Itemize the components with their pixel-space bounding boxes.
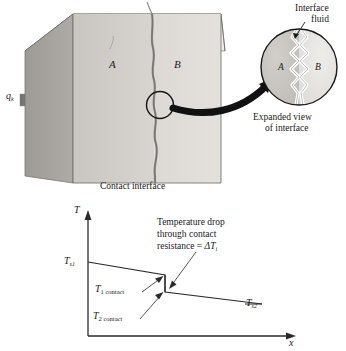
label-t2-contact: T2 contact xyxy=(93,310,122,322)
label-t2-contact-subscript: 2 contact xyxy=(99,315,123,322)
expanded-view-circle xyxy=(261,29,337,105)
leader-temperature-drop-annotation xyxy=(169,252,196,289)
interface-fluid-label-line2: fluid xyxy=(311,14,329,25)
annotation-delta-t-subscript: i xyxy=(215,246,217,252)
annotation-line-3: resistance = ΔTi xyxy=(157,240,217,252)
cube-label-material-b: B xyxy=(174,58,181,71)
annotation-line-2: through contact xyxy=(157,228,216,240)
contact-interface-top xyxy=(147,2,152,14)
label-t1-contact: T1 contact xyxy=(95,283,124,295)
label-t1-contact-subscript: 1 contact xyxy=(101,288,125,295)
label-ts2-subscript: s2 xyxy=(252,303,257,309)
cube-left-face xyxy=(25,14,73,183)
label-ts2-symbol: T xyxy=(246,297,252,308)
label-ts1-subscript: s1 xyxy=(70,261,75,267)
y-axis-arrowhead-icon xyxy=(85,210,92,220)
cube-and-callout-graphic xyxy=(0,0,346,200)
heat-flux-subscript: k xyxy=(11,96,14,102)
interface-fluid-label-line1: Interface xyxy=(295,3,329,14)
label-ts2: Ts2 xyxy=(246,297,257,309)
y-axis xyxy=(85,210,92,336)
label-ts1: Ts1 xyxy=(64,255,75,267)
annotation-line-1: Temperature drop xyxy=(157,216,225,228)
x-axis-label: x xyxy=(289,337,293,349)
expanded-label-region-a: A xyxy=(278,62,284,73)
cube-front-face-material-a xyxy=(73,14,155,183)
x-axis xyxy=(88,333,296,340)
label-ts1-symbol: T xyxy=(64,255,70,266)
heat-flux-label: qk xyxy=(6,90,14,102)
y-axis-label: T xyxy=(74,204,80,216)
cube-front-face-material-b xyxy=(152,14,221,183)
thermal-contact-resistance-figure: A B qk Contact interface Interface fluid… xyxy=(0,0,346,351)
contact-interface-caption: Contact interface xyxy=(100,181,165,192)
leader-t1-contact xyxy=(142,276,164,292)
annotation-delta-t-symbol: ΔT xyxy=(205,241,216,251)
expanded-view-caption-line2: of interface xyxy=(265,123,309,134)
leader-t2-contact xyxy=(140,292,164,319)
annotation-line-3-prefix: resistance = xyxy=(157,241,205,251)
label-t2-contact-symbol: T xyxy=(93,310,99,321)
label-t1-contact-symbol: T xyxy=(95,283,101,294)
cube-label-material-a: A xyxy=(109,58,116,71)
expanded-view-caption-line1: Expanded view xyxy=(253,112,312,123)
expanded-label-region-b: B xyxy=(315,62,321,73)
